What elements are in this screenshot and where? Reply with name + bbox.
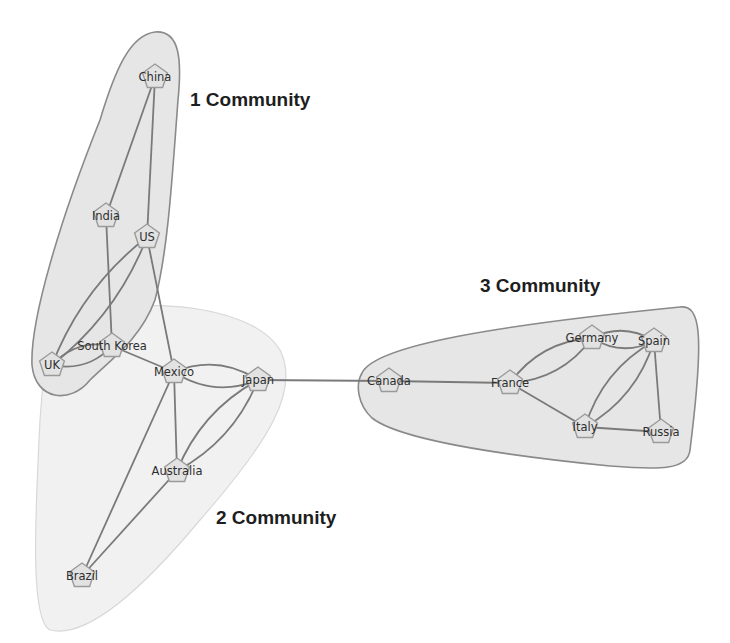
community-3-label: 3 Community (480, 275, 601, 296)
community-graph: ChinaIndiaUSUKSouth KoreaMexicoJapanAust… (0, 0, 730, 643)
community-2-label: 2 Community (216, 507, 337, 528)
node-label: Mexico (154, 365, 194, 379)
node-label: Spain (638, 334, 670, 348)
community-1-label: 1 Community (190, 89, 311, 110)
node-label: US (139, 230, 155, 244)
node-label: UK (44, 358, 60, 372)
node-label: India (92, 209, 120, 223)
node-label: Canada (367, 374, 411, 388)
node-label: China (139, 70, 172, 84)
community-labels-layer: 1 Community2 Community3 Community (190, 89, 601, 528)
node-label: Japan (241, 373, 274, 387)
node-label: Australia (152, 464, 203, 478)
node-label: Italy (573, 420, 598, 434)
node-label: France (491, 376, 529, 390)
node-label: Russia (643, 425, 680, 439)
node-label: Brazil (66, 569, 98, 583)
node-label: Germany (566, 331, 619, 345)
node-label: South Korea (77, 339, 147, 353)
